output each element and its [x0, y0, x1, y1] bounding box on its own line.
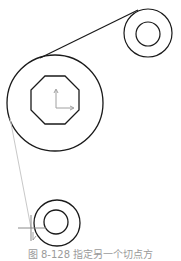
tangent-line	[40, 10, 138, 58]
rubber-band-line	[10, 118, 31, 228]
ucs-axes-icon	[54, 89, 74, 110]
figure-caption: 图 8-128 指定另一个切点方	[0, 248, 181, 261]
small-pulley-bottom	[34, 200, 80, 246]
large-pulley	[7, 55, 103, 151]
cad-drawing-canvas[interactable]	[0, 0, 181, 261]
crosshair-cursor-icon	[18, 215, 46, 241]
small-pulley-top	[124, 9, 172, 57]
octagon-hole	[31, 76, 79, 124]
